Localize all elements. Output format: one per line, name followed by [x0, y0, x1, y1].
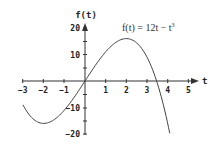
ytick-label: −20 — [66, 130, 81, 139]
y-axis-label: f(t) — [75, 10, 97, 20]
function-plot: −3 −2 −1 1 2 3 4 5 20 10 −10 −20 f(t) t … — [0, 0, 212, 146]
y-axis-arrow-icon — [82, 23, 88, 31]
xtick-label: −2 — [38, 86, 48, 95]
x-axis-arrow-icon — [191, 78, 199, 84]
plot-canvas: −3 −2 −1 1 2 3 4 5 20 10 −10 −20 f(t) t … — [0, 0, 212, 146]
xtick-label: 2 — [124, 86, 129, 95]
ytick-label: 10 — [70, 51, 80, 60]
xtick-label: −1 — [59, 86, 69, 95]
ytick-label: 20 — [70, 24, 80, 33]
xtick-label: 3 — [145, 86, 150, 95]
xtick-label: 5 — [186, 86, 191, 95]
xtick-label: 1 — [103, 86, 108, 95]
formula-exponent: 3 — [172, 22, 175, 28]
formula-text: f(t) = 12t − t — [122, 22, 172, 34]
x-tick-labels: −3 −2 −1 1 2 3 4 5 — [18, 86, 191, 95]
xtick-label: −3 — [18, 86, 28, 95]
x-axis-label: t — [202, 76, 207, 86]
formula-annotation: f(t) = 12t − t3 — [122, 22, 175, 34]
xtick-label: 4 — [165, 86, 170, 95]
